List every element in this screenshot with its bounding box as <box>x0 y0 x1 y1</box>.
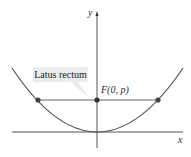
x-axis-label: x <box>178 134 182 145</box>
y-axis-label: y <box>88 7 92 18</box>
focus-label: F(0, p) <box>101 84 129 95</box>
latus-rectum-callout: Latus rectum <box>33 67 88 82</box>
parabola-diagram <box>0 0 191 157</box>
latus-rectum-left-point <box>35 97 40 102</box>
callout-pointer <box>70 82 90 99</box>
latus-rectum-right-point <box>155 97 160 102</box>
y-axis-arrow-icon <box>96 11 99 16</box>
focus-point <box>94 97 99 102</box>
